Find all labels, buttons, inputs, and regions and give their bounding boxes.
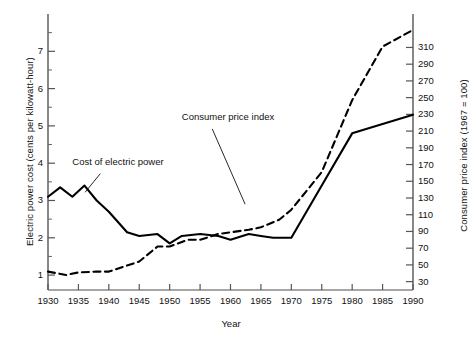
y-tick-label-left: 7	[23, 45, 43, 56]
y-tick-label-right: 270	[418, 75, 446, 86]
y-tick-label-left: 5	[23, 120, 43, 131]
y-tick-label-right: 50	[418, 259, 446, 270]
x-tick-label: 1935	[61, 295, 95, 306]
x-tick-label: 1950	[153, 295, 187, 306]
x-tick-label: 1960	[214, 295, 248, 306]
y-tick-label-right: 70	[418, 242, 446, 253]
y-tick-label-right: 190	[418, 142, 446, 153]
x-tick-label: 1985	[366, 295, 400, 306]
x-tick-label: 1930	[31, 295, 65, 306]
x-tick-label: 1940	[92, 295, 126, 306]
x-tick-label: 1990	[396, 295, 430, 306]
y-tick-label-left: 1	[23, 269, 43, 280]
annotation-leader-line	[212, 129, 245, 204]
y-tick-label-left: 3	[23, 194, 43, 205]
annotation-leader-line	[85, 174, 100, 193]
annotation-label: Consumer price index	[182, 111, 274, 122]
x-tick-label: 1980	[335, 295, 369, 306]
y-tick-label-right: 310	[418, 41, 446, 52]
annotation-label: Cost of electric power	[72, 156, 163, 167]
y-tick-label-right: 210	[418, 125, 446, 136]
series-line-cost-of-electric-power	[48, 115, 413, 244]
y-tick-label-left: 4	[23, 157, 43, 168]
y-tick-label-right: 90	[418, 225, 446, 236]
x-tick-label: 1965	[244, 295, 278, 306]
x-tick-label: 1970	[274, 295, 308, 306]
y-tick-label-right: 110	[418, 209, 446, 220]
y-tick-label-right: 150	[418, 175, 446, 186]
y-tick-label-right: 30	[418, 276, 446, 287]
y-tick-label-right: 230	[418, 108, 446, 119]
x-tick-label: 1955	[183, 295, 217, 306]
series-line-consumer-price-index	[48, 30, 413, 275]
y-tick-label-left: 2	[23, 232, 43, 243]
y-tick-label-right: 250	[418, 92, 446, 103]
y-tick-label-right: 130	[418, 192, 446, 203]
y-tick-label-right: 290	[418, 58, 446, 69]
y-tick-label-right: 170	[418, 159, 446, 170]
x-tick-label: 1945	[122, 295, 156, 306]
x-tick-label: 1975	[305, 295, 339, 306]
y-tick-label-left: 6	[23, 83, 43, 94]
